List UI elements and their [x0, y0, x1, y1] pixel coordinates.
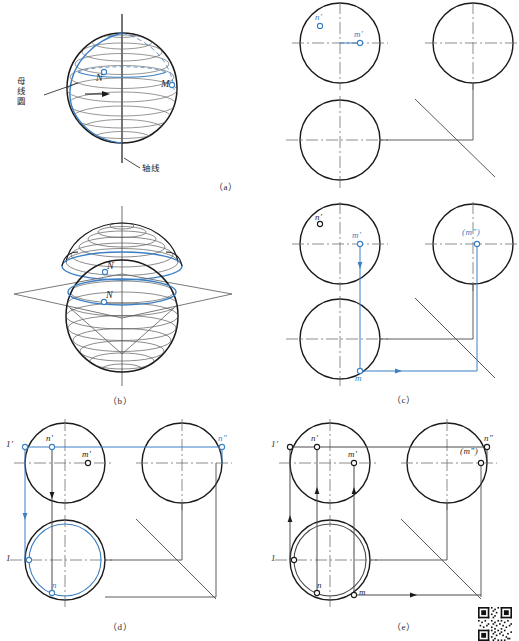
label-m-c: m — [355, 373, 362, 383]
label-n-prime-e: n′ — [311, 433, 318, 443]
panel-c-projection: n′ m′ m (m″) — [270, 196, 519, 396]
projection-arrows-e — [288, 487, 417, 597]
panel-d-projection: 1′ n′ m′ n″ 1 n — [0, 415, 260, 620]
label-1-d: 1 — [6, 553, 11, 563]
axis-leader — [124, 158, 140, 168]
point-1-prime-marker-e — [287, 444, 292, 449]
panel-b-pictorial: N N — [0, 196, 270, 396]
projection-chain-d — [23, 447, 222, 560]
point-n-prime-marker-d — [49, 444, 54, 449]
point-m-prime-marker-d — [85, 460, 90, 465]
point-m-prime-marker — [357, 40, 362, 45]
center-lines-c — [286, 202, 519, 386]
label-m-double-prime-c: (m″) — [462, 227, 480, 237]
label-m-double-prime-e: (m″) — [460, 446, 478, 456]
label-m-prime-e: m′ — [348, 449, 357, 459]
caption-b: （b） — [108, 394, 132, 407]
point-n-marker-d — [49, 590, 54, 595]
label-m-e: m — [359, 587, 366, 597]
miter-construction-d — [105, 463, 216, 599]
panel-a-sphere-svg — [0, 0, 270, 195]
panel-a-projection-svg — [270, 0, 519, 195]
point-n-prime-marker-c — [317, 221, 322, 226]
label-1-prime-d: 1′ — [6, 439, 13, 449]
point-n-double-prime-marker-d — [219, 444, 224, 449]
point-n-prime-marker — [317, 23, 322, 28]
label-n-prime: n′ — [315, 12, 322, 22]
label-m-prime-d: m′ — [82, 449, 91, 459]
point-m-double-prime-marker-e — [478, 460, 483, 465]
label-n-e: n — [317, 580, 322, 590]
panel-a-pictorial: N M 母 线 圆 轴线 — [0, 0, 270, 195]
panel-c-projection-svg — [270, 196, 519, 396]
point-m-prime-marker-e — [351, 460, 356, 465]
label-n-double-prime-d: n″ — [218, 433, 227, 443]
panel-d-projection-svg — [0, 415, 260, 620]
caption-e: （e） — [392, 620, 416, 633]
point-1-marker-e — [291, 557, 296, 562]
panel-e-projection-svg — [262, 415, 519, 620]
panel-a-projection: n′ m′ — [270, 0, 519, 195]
label-N-sphere: N — [106, 289, 113, 300]
point-m-marker-e — [351, 592, 356, 597]
miter-construction-c — [380, 284, 495, 378]
label-1-e: 1 — [271, 553, 276, 563]
rotation-arrow — [85, 91, 110, 97]
point-n-marker-e — [314, 590, 319, 595]
label-m-prime: m′ — [354, 29, 363, 39]
label-n-d: n — [52, 580, 57, 590]
label-m-prime-c: m′ — [352, 230, 361, 240]
generating-circle-leader — [44, 83, 78, 95]
caption-d: （d） — [108, 620, 132, 633]
panel-e-projection: 1′ n′ m′ n″ (m″) 1 n m — [262, 415, 519, 620]
miter-construction — [380, 83, 495, 177]
caption-a: （a） — [214, 180, 238, 193]
label-n-prime-d: n′ — [46, 433, 53, 443]
point-m-prime-marker-c — [357, 241, 362, 246]
point-m-double-prime-marker-c — [474, 241, 479, 246]
projection-chain-d-black — [50, 447, 55, 593]
label-n-prime-c: n′ — [315, 212, 322, 222]
point-n-prime-marker-e — [314, 444, 319, 449]
label-n-double-prime-e: n″ — [484, 433, 493, 443]
point-1-marker-d — [26, 557, 31, 562]
point-1-prime-marker-d — [22, 444, 27, 449]
point-N-sphere-marker — [101, 299, 106, 304]
label-M: M — [161, 78, 170, 89]
miter-construction-e — [370, 463, 481, 599]
caption-c: （c） — [392, 393, 416, 406]
point-n-double-prime-marker-e — [484, 444, 489, 449]
center-lines — [286, 2, 519, 188]
qr-code[interactable] — [478, 607, 512, 641]
panel-b-sphere-svg — [0, 196, 270, 396]
label-N: N — [96, 72, 103, 83]
label-N-cap: N — [107, 260, 114, 271]
axis-label: 轴线 — [142, 163, 160, 173]
label-1-prime-e: 1′ — [271, 439, 278, 449]
point-M-marker — [169, 82, 174, 87]
generating-circle-label: 母 线 圆 — [14, 76, 28, 106]
